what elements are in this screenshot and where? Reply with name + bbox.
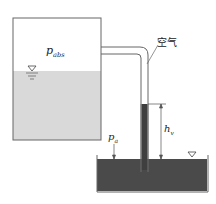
pa-arrow (113, 144, 116, 159)
air-label: 空气 (157, 34, 177, 49)
p-a-label: pa (108, 131, 118, 144)
free-surface-icon (188, 152, 196, 157)
p-abs-label: pabs (46, 44, 65, 59)
liquid-column (142, 104, 148, 170)
diagram-canvas (0, 0, 216, 204)
left-tank-water (13, 71, 101, 140)
h-v-label: hv (164, 123, 174, 136)
right-tank-liquid (97, 159, 207, 191)
